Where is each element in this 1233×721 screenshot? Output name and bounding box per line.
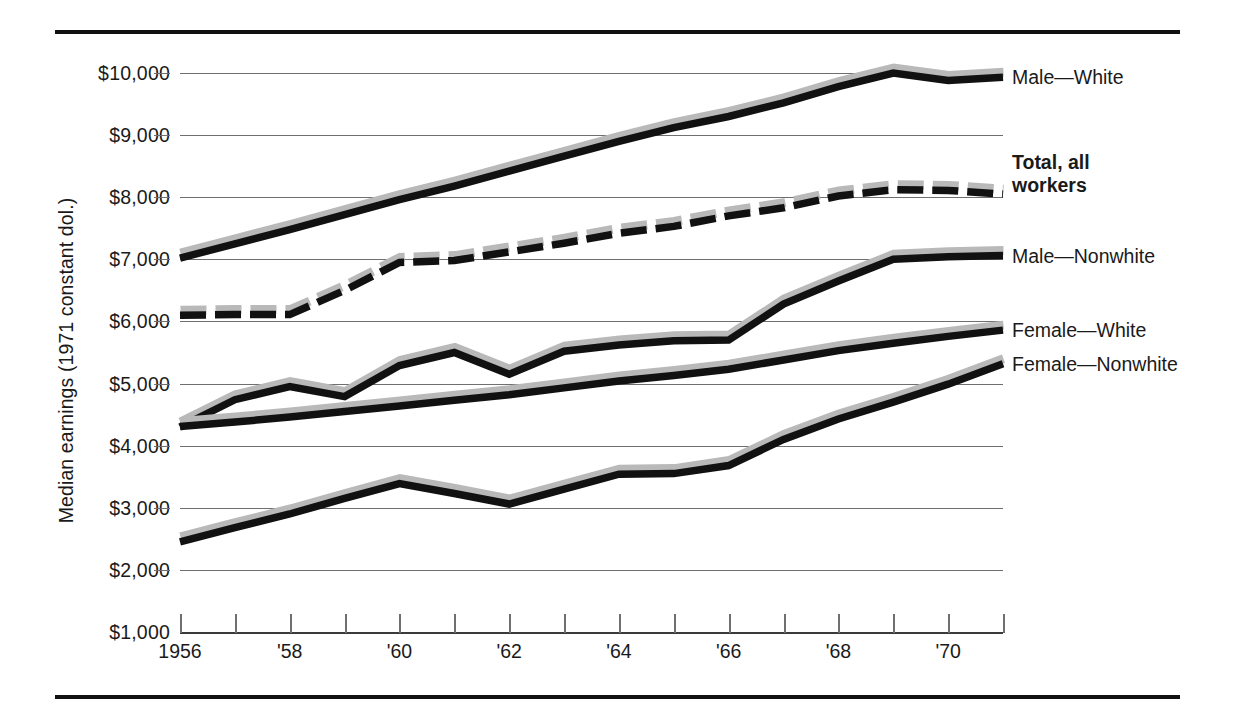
x-axis-tick (564, 614, 566, 633)
legend-item: Male—Nonwhite (1012, 244, 1155, 267)
x-axis-tick (1003, 614, 1005, 633)
legend-item: Total, allworkers (1012, 151, 1090, 197)
x-axis-tick-label: '66 (716, 640, 741, 663)
legend-item-label: Female—Nonwhite (1012, 352, 1178, 375)
y-axis-labels: $10,000$9,000$8,000$7,000$6,000$5,000$4,… (60, 73, 170, 632)
x-axis-tick-label: 1956 (158, 640, 201, 663)
x-axis-tick-label: '62 (496, 640, 521, 663)
legend-item-label: workers (1012, 174, 1090, 197)
x-axis-tick (235, 614, 237, 633)
x-axis-tick (838, 614, 840, 633)
x-axis-tick (948, 614, 950, 633)
series-line-shadow (181, 185, 1004, 310)
legend-item-label: Female—White (1012, 319, 1146, 342)
top-rule (55, 30, 1180, 34)
series-lines (160, 53, 1023, 652)
x-axis-tick-label: '70 (935, 640, 960, 663)
x-axis-tick-label: '58 (277, 640, 302, 663)
bottom-rule (55, 695, 1180, 699)
x-axis-tick (180, 614, 182, 633)
x-axis-tick (784, 614, 786, 633)
plot-area (180, 73, 1003, 632)
legend-item-label: Male—Nonwhite (1012, 244, 1155, 267)
legend-item: Female—White (1012, 319, 1146, 342)
legend-item: Male—White (1012, 66, 1124, 89)
x-axis-tick (509, 614, 511, 633)
x-axis-tick (399, 614, 401, 633)
legend-item-label: Total, all (1012, 151, 1090, 174)
series-line (180, 190, 1003, 315)
x-axis-tick-label: '68 (826, 640, 851, 663)
x-axis-tick-label: '60 (387, 640, 412, 663)
legend-item-label: Male—White (1012, 66, 1124, 89)
x-axis-tick (893, 614, 895, 633)
x-axis-line (180, 632, 1003, 634)
x-axis-tick (290, 614, 292, 633)
x-axis-tick (729, 614, 731, 633)
x-axis-tick-label: '64 (606, 640, 631, 663)
x-axis-tick (674, 614, 676, 633)
legend-item: Female—Nonwhite (1012, 352, 1178, 375)
x-axis-tick (454, 614, 456, 633)
chart-figure: Median earnings (1971 constant dol.) $10… (0, 0, 1233, 721)
x-axis-tick (345, 614, 347, 633)
x-axis-tick (619, 614, 621, 633)
